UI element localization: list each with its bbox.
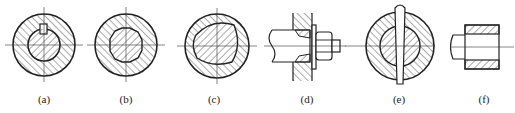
panel-c-profile-connection xyxy=(172,0,262,90)
caption-e: (e) xyxy=(393,93,405,105)
interference-fit-drawing xyxy=(450,0,515,90)
panel-f-interference-fit xyxy=(450,0,515,90)
pin-shaft-drawing xyxy=(345,0,435,90)
caption-b: (b) xyxy=(120,93,133,105)
profile-shaft-drawing xyxy=(172,0,262,90)
panel-d-sleeve-nut-connection xyxy=(262,0,352,90)
caption-a: (a) xyxy=(38,93,50,105)
caption-c: (c) xyxy=(208,93,220,105)
panel-e-pin-connection xyxy=(345,0,435,90)
spline-shaft-drawing xyxy=(82,0,172,90)
caption-d: (d) xyxy=(301,93,314,105)
caption-f: (f) xyxy=(479,93,490,105)
keyed-shaft-drawing xyxy=(0,0,90,90)
sleeve-nut-drawing xyxy=(262,0,352,90)
panel-b-spline-connection xyxy=(82,0,172,90)
panel-a-keyed-connection xyxy=(0,0,90,90)
